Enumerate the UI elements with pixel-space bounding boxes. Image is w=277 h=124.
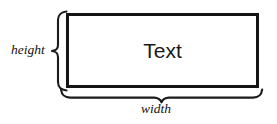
diagram-canvas: Text height width xyxy=(0,0,277,124)
text-box: Text xyxy=(66,13,259,88)
width-dimension-label: width xyxy=(141,102,171,116)
curly-brace-left-icon xyxy=(46,9,68,93)
height-dimension-label: height xyxy=(11,43,45,57)
text-box-label: Text xyxy=(143,40,182,61)
